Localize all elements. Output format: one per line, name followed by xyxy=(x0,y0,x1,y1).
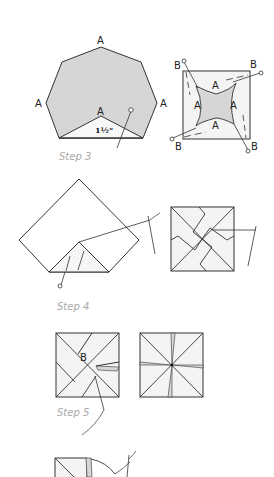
corner-label-bl: B xyxy=(175,141,182,152)
sewing-instruction-diagram: A A A A 1½" A A A A B B B B Step 3 xyxy=(0,0,274,477)
step6-partial-square xyxy=(55,451,136,477)
step5-block-label: B xyxy=(80,352,87,363)
square-label-left: A xyxy=(194,100,201,111)
square-label-bottom: A xyxy=(212,120,219,131)
square-label-top: A xyxy=(212,80,219,91)
step3-square: A A A A B B B B xyxy=(170,59,263,153)
heptagon-label-right: A xyxy=(160,98,167,109)
step5-square-right xyxy=(140,333,203,397)
step3-heptagon: A A A A 1½" xyxy=(35,35,167,148)
step4-diamond xyxy=(19,179,160,288)
corner-label-tr: B xyxy=(250,59,257,70)
heptagon-label-inner: A xyxy=(97,106,104,117)
step5-label: Step 5 xyxy=(57,407,89,418)
heptagon-label-left: A xyxy=(35,98,42,109)
heptagon-label-top: A xyxy=(97,35,104,46)
step3-label: Step 3 xyxy=(59,151,91,162)
square-label-right: A xyxy=(230,100,237,111)
step4-square xyxy=(171,207,256,271)
measurement-label: 1½" xyxy=(95,125,113,135)
step4-label: Step 4 xyxy=(57,301,89,312)
corner-label-tl: B xyxy=(174,60,181,71)
step5-square-left: B xyxy=(56,333,119,435)
corner-label-br: B xyxy=(251,141,258,152)
